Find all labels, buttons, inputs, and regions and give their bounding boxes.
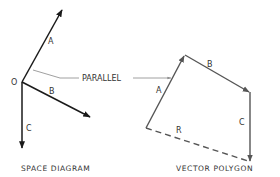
- vector-polygon: A B C R VECTOR POLYGON: [146, 55, 253, 173]
- vector-c-label: C: [26, 124, 32, 133]
- space-diagram-caption: SPACE DIAGRAM: [21, 164, 90, 173]
- leader-line-left: [33, 70, 79, 78]
- polygon-r-label: R: [176, 126, 182, 135]
- vector-a-arrow: [22, 10, 62, 82]
- vector-b-arrow: [22, 82, 90, 117]
- origin-label: O: [11, 78, 17, 87]
- vector-a-label: A: [48, 37, 54, 46]
- polygon-resultant-r: [146, 128, 248, 161]
- polygon-c-label: C: [239, 118, 245, 127]
- parallel-label: PARALLEL: [82, 74, 121, 83]
- diagram-canvas: O A B C SPACE DIAGRAM PARALLEL A B C R V…: [0, 0, 280, 177]
- polygon-side-a: [146, 56, 184, 128]
- vector-polygon-caption: VECTOR POLYGON: [176, 164, 253, 173]
- polygon-side-b: [185, 55, 249, 92]
- parallel-leader: PARALLEL: [33, 70, 171, 83]
- polygon-a-label: A: [156, 86, 162, 95]
- space-diagram: O A B C SPACE DIAGRAM: [11, 10, 90, 173]
- vector-b-label: B: [49, 87, 55, 96]
- polygon-b-label: B: [207, 60, 213, 69]
